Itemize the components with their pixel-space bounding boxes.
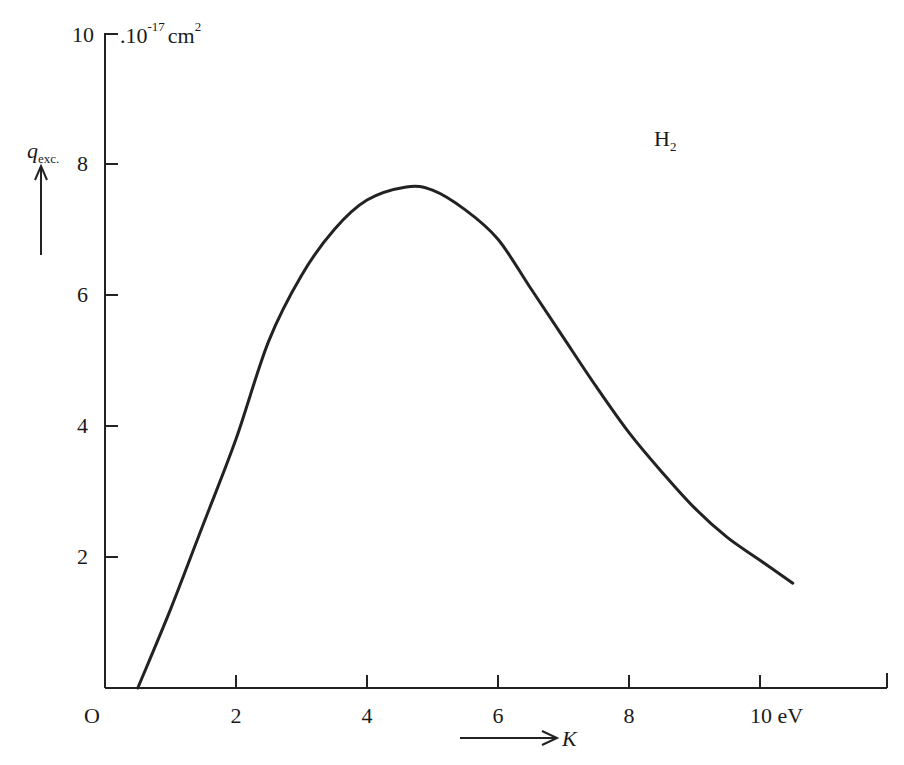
y-ticks: [105, 164, 118, 557]
y-axis-arrow-icon: [35, 166, 47, 255]
unit-exponent: -17: [148, 19, 165, 34]
species-annotation: H2: [654, 128, 676, 153]
chart-canvas: [0, 0, 904, 765]
y-axis-symbol: q: [27, 138, 38, 163]
y-tick-label-2: 2: [58, 546, 88, 568]
y-axis-top-tick-label: 10: [72, 24, 94, 46]
unit-cm-exponent: 2: [195, 19, 202, 34]
x-tick-label-10: 10 eV: [750, 705, 803, 727]
y-tick-10: 10: [72, 22, 94, 47]
x-axis-arrow-icon: [460, 731, 557, 745]
y-axis-label: qexc.: [27, 140, 59, 165]
x-tick-label-4: 4: [347, 705, 387, 727]
x-tick-label-6: 6: [478, 705, 518, 727]
x-tick-label-8: 8: [609, 705, 649, 727]
species-subscript: 2: [670, 139, 677, 154]
y-axis-unit-label: .10-17cm2: [120, 24, 201, 47]
species-symbol: H: [654, 126, 670, 151]
y-tick-label-6: 6: [58, 284, 88, 306]
y-tick-label-8: 8: [58, 153, 88, 175]
cross-section-curve: [138, 186, 793, 688]
unit-cm: cm: [168, 23, 195, 48]
x-axis-label: K: [562, 728, 577, 750]
x-ticks: [236, 673, 887, 688]
x-tick-label-2: 2: [216, 705, 256, 727]
x-tick-label-0: O: [72, 705, 112, 727]
unit-prefix: .10: [120, 23, 148, 48]
y-axis-subscript: exc.: [38, 151, 59, 166]
y-tick-label-4: 4: [58, 415, 88, 437]
